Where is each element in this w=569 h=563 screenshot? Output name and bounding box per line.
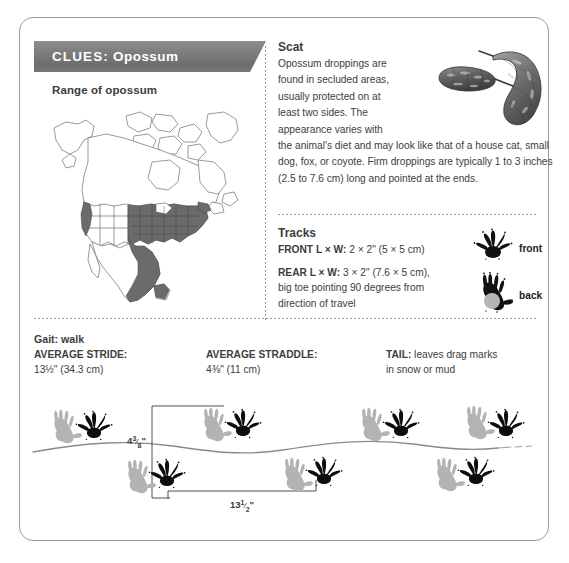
front-print-row: front	[473, 228, 542, 268]
scat-illustration	[431, 46, 569, 132]
track-pair-upper-4	[467, 406, 524, 439]
gait-tail-value-2: in snow or mud	[386, 362, 536, 377]
range-title: Range of opossum	[34, 84, 256, 96]
stride-measure-label: 131⁄2"	[230, 499, 254, 513]
gait-section: Gait: walk AVERAGE STRIDE: 13½" (34.3 cm…	[34, 333, 536, 378]
track-pair-lower-3	[437, 457, 494, 491]
back-paw-print-icon	[473, 272, 513, 318]
tracks-section: Tracks FRONT L × W: 2 × 2" (5 × 5 cm) RE…	[278, 226, 563, 311]
track-pair-upper-2	[204, 408, 261, 441]
gait-track-diagram: 43⁄8" 131⁄2"	[28, 396, 542, 526]
tracks-heading: Tracks	[278, 226, 468, 240]
scat-block: Scat Opossum droppings are found in secl…	[278, 40, 563, 187]
tracks-front-value: 2 × 2" (5 × 5 cm)	[346, 244, 424, 255]
tracks-front-label: FRONT L × W:	[278, 244, 346, 255]
back-print-caption: back	[519, 290, 542, 301]
scat-paragraph-wide: the animal's diet and may look like that…	[278, 138, 563, 187]
front-paw-print-icon	[473, 228, 513, 268]
banner-keyword: CLUES:	[52, 49, 109, 64]
tracks-front-line: FRONT L × W: 2 × 2" (5 × 5 cm)	[278, 242, 468, 258]
gait-stride-value: 13½" (34.3 cm)	[34, 362, 206, 377]
banner-title: CLUES: Opossum	[34, 49, 178, 64]
scat-paragraph-narrow: Opossum droppings are found in secluded …	[278, 56, 403, 138]
back-print-row: back	[473, 272, 542, 318]
track-pair-lower-2	[285, 457, 342, 491]
gait-stride-column: AVERAGE STRIDE: 13½" (34.3 cm)	[34, 347, 206, 378]
tracks-text: Tracks FRONT L × W: 2 × 2" (5 × 5 cm) RE…	[278, 226, 468, 311]
tracks-rear-note-1: big toe pointing 90 degrees from	[278, 280, 468, 296]
vertical-dotted-divider	[265, 46, 266, 322]
scat-section: Scat Opossum droppings are found in secl…	[278, 40, 536, 187]
front-print-caption: front	[519, 243, 542, 254]
gait-straddle-column: AVERAGE STRADDLE: 4⅜" (11 cm)	[206, 347, 386, 378]
gait-straddle-label: AVERAGE STRADDLE:	[206, 349, 317, 360]
gait-tail-column: TAIL: leaves drag marks in snow or mud	[386, 347, 536, 378]
banner-subject: Opossum	[113, 49, 178, 64]
gait-title: Gait: walk	[34, 333, 536, 345]
track-pair-upper-1	[54, 410, 112, 443]
tracks-rear-label: REAR L × W:	[278, 267, 340, 278]
tracks-dotted-divider	[278, 214, 536, 215]
gait-straddle-value: 4⅜" (11 cm)	[206, 362, 386, 377]
track-pair-lower-1	[128, 459, 185, 493]
tail-drag-line-fade	[498, 446, 532, 448]
clues-card: CLUES: Opossum Range of opossum	[19, 17, 549, 541]
gait-tail-label: TAIL:	[386, 349, 411, 360]
tracks-rear-line: REAR L × W: 3 × 2" (7.6 × 5 cm),	[278, 265, 468, 281]
tracks-rear-value: 3 × 2" (7.6 × 5 cm),	[340, 267, 430, 278]
track-pair-upper-3	[362, 408, 419, 441]
gait-stride-label: AVERAGE STRIDE:	[34, 349, 127, 360]
tracks-rear-note-2: direction of travel	[278, 296, 468, 312]
gait-columns: AVERAGE STRIDE: 13½" (34.3 cm) AVERAGE S…	[34, 347, 536, 378]
tail-drag-line	[33, 441, 498, 453]
straddle-measure-label: 43⁄8"	[127, 435, 146, 449]
range-section: Range of opossum	[34, 84, 256, 327]
gait-tail-value: leaves drag marks	[411, 349, 497, 360]
gait-dotted-divider	[34, 318, 536, 319]
north-america-range-map	[48, 110, 248, 322]
banner-shape: CLUES: Opossum	[34, 41, 266, 72]
clues-banner: CLUES: Opossum	[34, 41, 266, 72]
